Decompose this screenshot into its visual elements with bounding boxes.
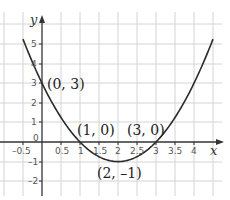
parabola-chart: y x 0 –0.5 0.5 1 1.5 2 2.5 3 3.5 4 5 4 3… <box>0 0 230 200</box>
x-tick-label: 2.5 <box>130 146 144 156</box>
x-tick-label: 0.5 <box>55 146 69 156</box>
y-intercept-label: (0, 3) <box>47 76 85 92</box>
x-tick-label: 2 <box>115 146 121 156</box>
origin-label: 0 <box>33 133 39 143</box>
y-tick-label: 1 <box>31 117 37 127</box>
y-tick-label: 2 <box>31 98 37 108</box>
y-tick-label: 3 <box>31 78 37 88</box>
vertex-label: (2, –1) <box>97 165 142 181</box>
x-tick-label: 3.5 <box>168 146 182 156</box>
root-1-label: (1, 0) <box>77 122 115 138</box>
x-tick-label: 1.5 <box>93 146 107 156</box>
x-tick-label: 1 <box>78 146 84 156</box>
y-tick-label: –1 <box>28 157 38 167</box>
y-axis-arrow-icon <box>39 15 45 23</box>
y-tick-label: –2 <box>28 176 38 186</box>
y-tick-label: 4 <box>31 59 37 69</box>
x-tick-label: –0.5 <box>12 146 31 156</box>
y-tick-label: 5 <box>31 39 37 49</box>
root-2-label: (3, 0) <box>127 122 165 138</box>
x-tick-label: 4 <box>191 146 197 156</box>
x-axis-label: x <box>210 143 218 158</box>
x-tick-label: 3 <box>153 146 159 156</box>
y-axis-label: y <box>29 12 38 27</box>
